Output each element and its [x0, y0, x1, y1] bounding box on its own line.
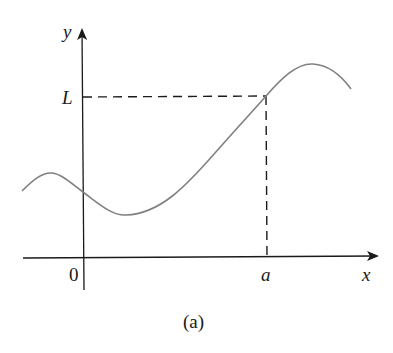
x-axis — [23, 256, 377, 258]
dashed-line-a — [266, 96, 267, 257]
x-axis-label: x — [361, 264, 371, 285]
y-axis-label: y — [61, 21, 72, 42]
dashed-line-l — [83, 96, 266, 97]
figure-caption: (a) — [183, 311, 204, 333]
l-marker-label: L — [61, 87, 73, 108]
limit-diagram: y L 0 a x (a) — [0, 0, 393, 353]
y-axis — [82, 30, 84, 290]
origin-label: 0 — [69, 264, 79, 285]
a-marker-label: a — [261, 264, 271, 285]
